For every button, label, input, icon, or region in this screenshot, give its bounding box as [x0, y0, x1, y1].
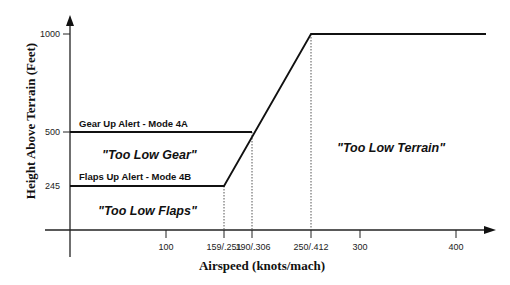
x-tick-label-100: 100: [158, 242, 173, 252]
x-tick-label-190: 190/.306: [235, 242, 270, 252]
x-tick-label-400: 400: [448, 242, 463, 252]
y-tick-label-1000: 1000: [40, 29, 60, 39]
gear-alert-label: Gear Up Alert - Mode 4A: [79, 118, 188, 129]
y-tick-label-245: 245: [45, 181, 60, 191]
x-axis-arrow-icon: [484, 226, 496, 234]
too-low-gear-label: "Too Low Gear": [102, 148, 198, 162]
x-tick-label-300: 300: [352, 242, 367, 252]
too-low-terrain-label: "Too Low Terrain": [337, 141, 446, 155]
gpws-mode4-diagram: 1000 500 245 100 159/.251 190/.306 250/.…: [0, 0, 510, 285]
too-low-flaps-label: "Too Low Flaps": [98, 204, 198, 218]
y-axis-arrow-icon: [66, 15, 74, 26]
y-tick-label-500: 500: [45, 127, 60, 137]
x-axis-title: Airspeed (knots/mach): [199, 258, 325, 273]
y-axis-title: Height Above Terrain (Feet): [23, 43, 38, 199]
x-tick-label-250: 250/.412: [293, 242, 328, 252]
terrain-boundary-line: [70, 34, 486, 186]
flaps-alert-label: Flaps Up Alert - Mode 4B: [79, 171, 191, 182]
